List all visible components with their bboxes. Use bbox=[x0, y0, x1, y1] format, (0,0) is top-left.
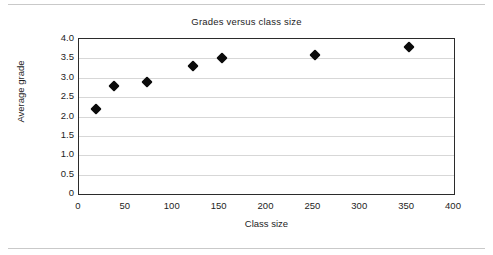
x-tick-label: 400 bbox=[433, 200, 473, 211]
y-axis-tick-labels: 00.51.01.52.02.53.03.54.0 bbox=[38, 38, 74, 195]
data-point bbox=[188, 60, 199, 71]
data-point bbox=[90, 103, 101, 114]
gridline bbox=[79, 97, 454, 98]
data-point bbox=[108, 80, 119, 91]
x-axis-tick-labels: 050100150200250300350400 bbox=[78, 200, 455, 214]
page-canvas: Grades versus class size 00.51.01.52.02.… bbox=[0, 0, 493, 255]
data-point bbox=[403, 41, 414, 52]
gridline bbox=[79, 175, 454, 176]
y-tick-label: 0 bbox=[40, 188, 74, 198]
y-tick-label: 1.0 bbox=[40, 149, 74, 159]
y-tick-label: 0.5 bbox=[40, 169, 74, 179]
gridline bbox=[79, 58, 454, 59]
x-tick-label: 350 bbox=[386, 200, 426, 211]
x-tick-label: 50 bbox=[105, 200, 145, 211]
chart-title: Grades versus class size bbox=[0, 16, 493, 27]
gridline bbox=[79, 136, 454, 137]
page-rule-bottom bbox=[8, 248, 485, 249]
y-axis-title: Average grade bbox=[15, 52, 26, 132]
data-point bbox=[216, 53, 227, 64]
x-tick-label: 200 bbox=[246, 200, 286, 211]
y-tick-label: 1.5 bbox=[40, 130, 74, 140]
plot-area bbox=[78, 38, 455, 195]
y-tick-label: 3.5 bbox=[40, 52, 74, 62]
x-tick-label: 0 bbox=[58, 200, 98, 211]
page-rule-top bbox=[8, 4, 485, 5]
gridline bbox=[79, 117, 454, 118]
chart-figure: Grades versus class size 00.51.01.52.02.… bbox=[0, 8, 493, 244]
gridline bbox=[79, 78, 454, 79]
y-tick-label: 3.0 bbox=[40, 72, 74, 82]
x-tick-label: 300 bbox=[339, 200, 379, 211]
x-tick-label: 250 bbox=[292, 200, 332, 211]
y-tick-label: 4.0 bbox=[40, 33, 74, 43]
x-axis-title: Class size bbox=[78, 218, 455, 229]
gridline bbox=[79, 155, 454, 156]
y-tick-label: 2.0 bbox=[40, 111, 74, 121]
x-tick-label: 150 bbox=[199, 200, 239, 211]
x-tick-label: 100 bbox=[152, 200, 192, 211]
y-tick-label: 2.5 bbox=[40, 91, 74, 101]
